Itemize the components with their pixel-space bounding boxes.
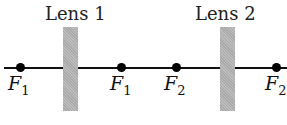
- f2-left-label: F2: [164, 72, 185, 98]
- optical-axis: [4, 67, 287, 69]
- focal-point-f1-right: [117, 63, 126, 72]
- lens-1-label: Lens 1: [45, 3, 106, 24]
- focal-point-f1-left: [16, 63, 25, 72]
- lens-2: [220, 27, 235, 111]
- lens-2-label: Lens 2: [195, 3, 256, 24]
- f1-left-label: F1: [8, 72, 29, 98]
- f2-right-label: F2: [265, 72, 286, 98]
- f1-right-label: F1: [110, 72, 131, 98]
- focal-point-f2-left: [172, 63, 181, 72]
- lens-1: [63, 27, 78, 111]
- focal-point-f2-right: [272, 63, 281, 72]
